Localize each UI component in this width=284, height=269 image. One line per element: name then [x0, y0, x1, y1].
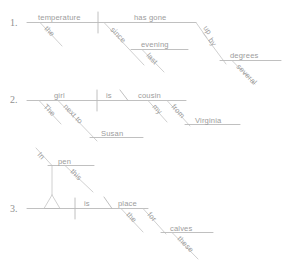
word-my-2: my: [151, 102, 165, 116]
word-last-1: last: [145, 51, 161, 67]
pedestal-right-3: [52, 195, 60, 209]
word-verb-2: is: [106, 91, 112, 100]
word-virginia-2: Virginia: [195, 116, 222, 125]
worksheet-page: 1. temperature has gone the: [0, 0, 284, 269]
word-subject-2: girl: [54, 91, 65, 100]
exercise-2-group: 2. girl is cousin The next to: [10, 90, 240, 141]
word-the-2: The: [42, 102, 58, 118]
exercise-number-1: 1.: [10, 17, 18, 28]
word-evening-1: evening: [141, 40, 169, 49]
word-the-1: the: [43, 24, 57, 38]
pedestal-left-3: [44, 195, 52, 209]
word-for-3: for: [146, 210, 159, 223]
word-up-1: up: [201, 24, 213, 36]
word-complement-2: cousin: [138, 91, 161, 100]
word-this-3: this: [69, 167, 84, 182]
exercise-1-group: 1. temperature has gone the: [10, 12, 281, 87]
word-the-3: the: [125, 210, 139, 224]
word-nextto-2: next to: [62, 102, 85, 125]
word-susan-2: Susan: [101, 129, 123, 138]
word-degrees-1: degrees: [230, 51, 259, 60]
exercise-3-group: 3. In: [10, 148, 213, 259]
word-these-3: these: [176, 234, 196, 254]
word-by-1: by: [206, 36, 218, 48]
word-pen-3: pen: [58, 157, 71, 166]
complement-slant-2: [120, 90, 128, 101]
word-complement-3: place: [118, 199, 137, 208]
complement-slant-3: [104, 197, 112, 209]
word-from-2: from: [170, 102, 187, 120]
sentence-diagrams-canvas: 1. temperature has gone the: [0, 0, 284, 269]
exercise-number-3: 3.: [10, 203, 18, 214]
word-since-1: since: [109, 25, 128, 45]
word-verb-1: has gone: [134, 13, 166, 22]
exercise-number-2: 2.: [10, 94, 18, 105]
word-in-3: In: [36, 150, 47, 161]
word-subject-1: temperature: [38, 13, 81, 22]
word-several-1: several: [235, 62, 259, 87]
word-verb-3: is: [84, 199, 90, 208]
word-calves-3: calves: [170, 224, 192, 233]
